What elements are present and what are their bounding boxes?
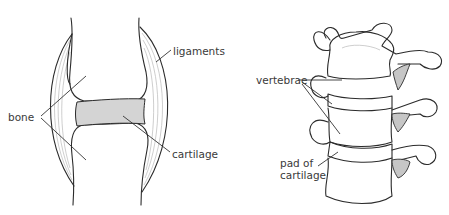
label-ligaments: ligaments <box>173 45 225 57</box>
vertebra-middle <box>328 108 392 147</box>
cartilage-leader <box>123 116 170 152</box>
transverse-process-left-3 <box>310 120 330 144</box>
diagram-figure: bone ligaments cartilage <box>0 0 449 215</box>
label-pad-line1: pad of <box>280 157 314 169</box>
vertebra-top <box>327 32 393 79</box>
vertebrae-leader-lower <box>302 84 340 134</box>
ligament-left <box>51 34 75 186</box>
disc-1 <box>328 94 392 111</box>
label-pad-line2: cartilage <box>280 169 326 181</box>
diagram-canvas: bone ligaments cartilage <box>0 0 449 215</box>
facet-shade-1 <box>393 64 410 90</box>
label-cartilage: cartilage <box>172 148 218 160</box>
facet-shade-2 <box>392 113 410 132</box>
ligaments-leader <box>156 50 171 62</box>
label-vertebrae: vertebrae <box>256 74 307 86</box>
transverse-process-left-top <box>314 32 330 51</box>
upper-bone <box>70 18 148 101</box>
cartilage-pad <box>76 99 146 126</box>
lower-bone <box>71 123 148 205</box>
label-bone: bone <box>8 111 34 123</box>
vertebra-bottom <box>326 158 392 204</box>
spine-illustration: vertebrae pad of cartilage <box>256 23 442 203</box>
spinous-process-top <box>324 23 441 69</box>
facet-shade-3 <box>392 159 410 178</box>
joint-illustration: bone ligaments cartilage <box>8 18 225 205</box>
